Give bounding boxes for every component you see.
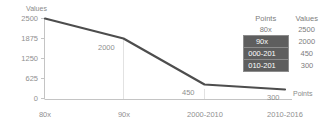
table-header-values: Values xyxy=(288,13,325,24)
table-cell-values[interactable]: 2000 xyxy=(288,36,325,48)
table-row[interactable]: 80x 2500 xyxy=(244,24,326,36)
table-row[interactable]: 90x 2000 xyxy=(244,36,326,48)
y-tick-label-1875: 1875 xyxy=(6,34,38,43)
table-cell-values[interactable]: 450 xyxy=(288,48,325,60)
table-row[interactable]: 000-201 450 xyxy=(244,48,326,60)
y-tick-label-625: 625 xyxy=(6,74,38,83)
table-cell-points[interactable]: 010-201 xyxy=(244,60,289,72)
table-cell-values[interactable]: 300 xyxy=(288,60,325,72)
table-cell-points-text: 010-201 xyxy=(244,60,284,71)
x-tick-label-2000-2010: 2000-2010 xyxy=(175,110,235,119)
y-axis-title: Values xyxy=(26,5,47,12)
x-axis-title: Points xyxy=(293,90,312,97)
x-tick-label-2010-2016: 2010-2016 xyxy=(255,110,315,119)
table-header-row: Points Values xyxy=(244,13,326,24)
table-cell-points[interactable]: 80x xyxy=(244,24,289,36)
data-label-2000: 2000 xyxy=(98,43,115,52)
x-tick-label-90x: 90x xyxy=(104,110,144,119)
table-cell-points-text: 000-201 xyxy=(244,48,284,59)
table-header-points: Points xyxy=(244,13,289,24)
data-label-300: 300 xyxy=(267,93,280,102)
y-tick-label-2500: 2500 xyxy=(6,14,38,23)
y-tick-label-1250: 1250 xyxy=(6,54,38,63)
data-label-450: 450 xyxy=(182,88,195,97)
table-row[interactable]: 010-201 300 xyxy=(244,60,326,72)
table-cell-points[interactable]: 000-201 xyxy=(244,48,289,60)
x-tick-label-80x: 80x xyxy=(25,110,65,119)
table-cell-points-text: 90x xyxy=(244,36,284,47)
data-table[interactable]: Points Values 80x 2500 90x 2000 000-201 … xyxy=(243,13,326,72)
table-cell-points[interactable]: 90x xyxy=(244,36,289,48)
line-chart: Values Points 2500 1875 1250 625 0 80x 9… xyxy=(0,0,329,126)
table-cell-values[interactable]: 2500 xyxy=(288,24,325,36)
y-tick-label-0: 0 xyxy=(6,94,38,103)
